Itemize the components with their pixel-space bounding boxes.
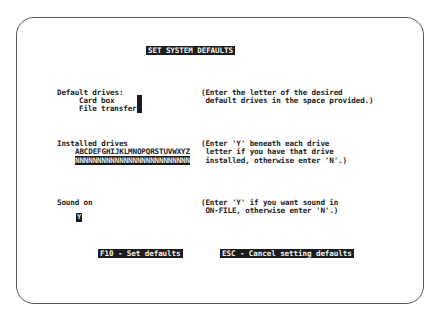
sound-on-input[interactable]: Y: [76, 213, 82, 222]
drive-letters-row: ABCDEFGHIJKLMNOPQRSTUVWXYZ: [75, 147, 190, 156]
cancel-defaults-button[interactable]: ESC - Cancel setting defaults: [220, 249, 354, 258]
page-title: SET SYSTEM DEFAULTS: [146, 46, 235, 55]
installed-drives-help-line3: installed, otherwise enter 'N'.): [201, 156, 347, 165]
default-drives-help-line2: default drives in the space provided.): [201, 96, 373, 105]
sound-on-label: Sound on: [57, 198, 92, 207]
file-transfer-label: File transfer: [79, 104, 136, 113]
file-transfer-drive-input[interactable]: [137, 104, 142, 113]
installed-drives-input[interactable]: NNNNNNNNNNNNNNNNNNNNNNNNNN: [75, 156, 190, 165]
installed-drives-help-line2: letter if you have that drive: [201, 147, 334, 156]
set-defaults-button[interactable]: F10 - Set defaults: [98, 249, 183, 258]
card-box-drive-input[interactable]: [137, 95, 142, 104]
sound-help-line2: ON-FILE, otherwise enter 'N'.): [201, 206, 338, 215]
